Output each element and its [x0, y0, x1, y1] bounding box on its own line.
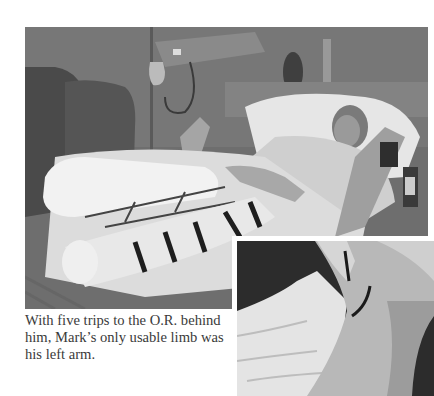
arm-closeup-illustration	[237, 241, 434, 396]
arm-suture-closeup-photo	[237, 241, 434, 396]
photo-caption: With five trips to the O.R. behind him, …	[25, 312, 230, 363]
